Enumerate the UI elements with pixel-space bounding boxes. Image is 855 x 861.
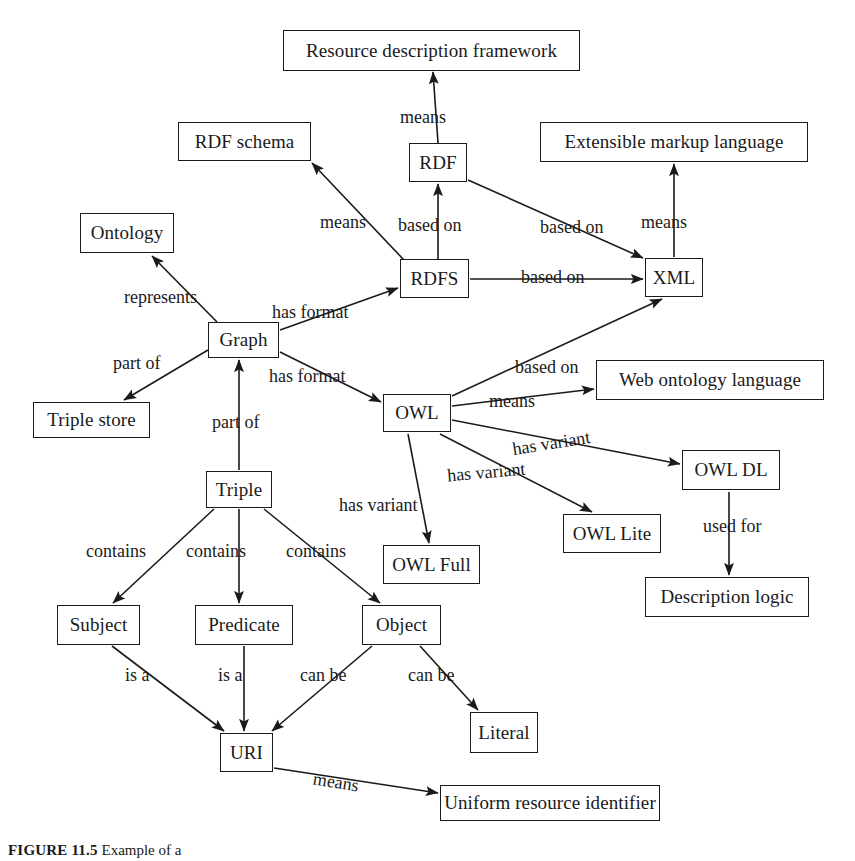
figure-root: Resource description frameworkRDF schema… — [0, 0, 855, 861]
edge-label-owl-xml: based on — [515, 358, 578, 376]
edge-label-subject-uri: is a — [125, 666, 150, 684]
edge-label-triple-predicate: contains — [186, 542, 246, 560]
edge-label-owl-web_ont_lang: means — [489, 392, 535, 410]
edge-label-graph-ontology: represents — [124, 288, 197, 306]
edge-label-owl-owl_full: has variant — [339, 496, 417, 514]
edge-label-rdf-rdf_framework: means — [400, 108, 446, 126]
edge-label-graph-owl: has format — [269, 367, 345, 385]
label-layer: meansbased onmeansbased onbased onmeansr… — [0, 0, 855, 861]
edge-label-predicate-uri: is a — [218, 666, 243, 684]
edge-label-owl-owl_dl: has variant — [511, 428, 591, 458]
edge-label-triple-subject: contains — [86, 542, 146, 560]
edge-label-graph-triple_store: part of — [113, 354, 160, 372]
edge-label-graph-rdfs: has format — [272, 303, 348, 321]
edge-label-uri-uniform_res: means — [312, 770, 360, 795]
edge-label-xml-ext_markup: means — [641, 213, 687, 231]
edge-label-object-literal: can be — [408, 666, 454, 684]
figure-caption-text: Example of a — [101, 842, 181, 858]
edge-label-owl-owl_lite: has variant — [446, 460, 526, 485]
edge-label-rdfs-xml: based on — [521, 268, 584, 286]
edge-label-triple-object: contains — [286, 542, 346, 560]
edge-label-rdfs-rdf_schema: means — [320, 213, 366, 231]
edge-label-triple-graph: part of — [212, 413, 259, 431]
figure-caption-label: FIGURE 11.5 — [8, 842, 98, 858]
edge-label-rdfs-rdf: based on — [398, 216, 461, 234]
edge-label-owl_dl-desc_logic: used for — [703, 517, 761, 535]
edge-label-rdf-xml: based on — [540, 218, 603, 236]
edge-label-object-uri: can be — [300, 666, 346, 684]
figure-caption: FIGURE 11.5 Example of a — [8, 842, 181, 859]
